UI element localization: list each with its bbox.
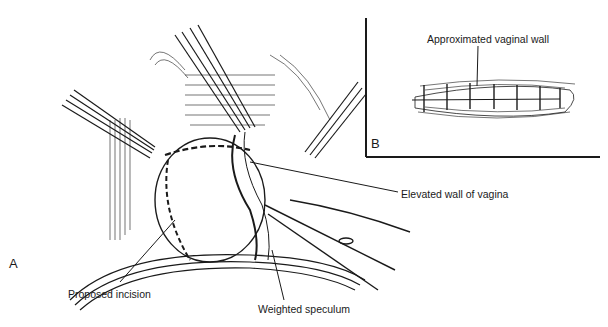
surgical-illustration <box>0 0 608 327</box>
retractor-left <box>62 90 155 158</box>
label-proposed-incision: Proposed incision <box>68 288 151 300</box>
label-approximated-vaginal-wall: Approximated vaginal wall <box>427 33 549 45</box>
approximated-wall-drawing <box>412 46 575 118</box>
forceps <box>265 200 410 290</box>
label-weighted-speculum: Weighted speculum <box>258 303 350 315</box>
cystocele-bulge <box>155 138 265 262</box>
panel-a-label: A <box>9 256 18 271</box>
leader-elevated-wall <box>250 162 398 192</box>
retractor-top <box>175 25 255 132</box>
label-elevated-wall-of-vagina: Elevated wall of vagina <box>401 188 508 200</box>
retractor-right <box>305 82 366 158</box>
panel-b-label: B <box>371 136 380 151</box>
speculum <box>70 255 365 310</box>
